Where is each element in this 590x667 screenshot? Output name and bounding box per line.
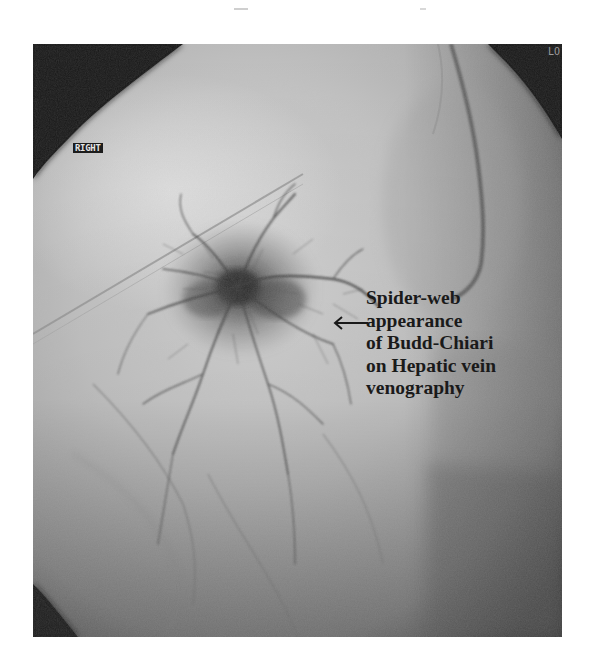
annotation-line: appearance <box>366 310 496 333</box>
annotation-line: on Hepatic vein <box>366 355 496 378</box>
cropped-text-remnant <box>0 0 590 6</box>
corner-marker: LO <box>548 46 560 57</box>
annotation-line: venography <box>366 377 496 400</box>
figure-annotation: Spider-web appearance of Budd-Chiari on … <box>366 287 496 400</box>
orientation-marker-right: RIGHT <box>73 143 103 153</box>
left-arrow-icon <box>333 316 369 330</box>
annotation-line: of Budd-Chiari <box>366 332 496 355</box>
annotation-line: Spider-web <box>366 287 496 310</box>
